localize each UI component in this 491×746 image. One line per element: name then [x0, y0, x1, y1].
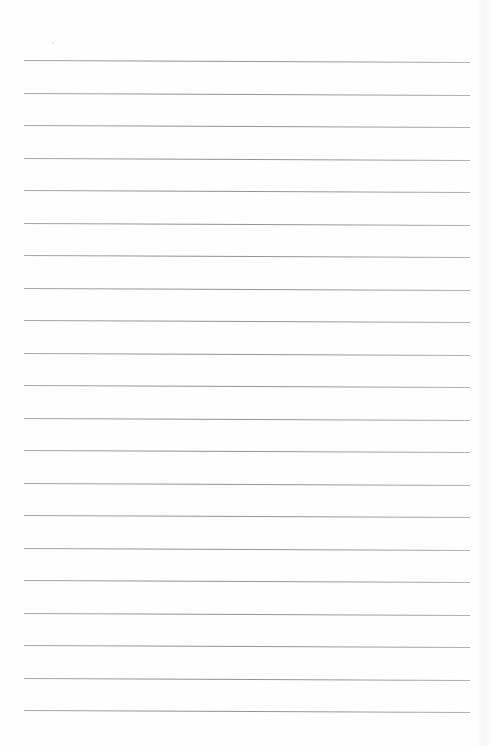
ruled-line [24, 190, 470, 193]
lined-paper-page [0, 0, 491, 746]
paper-speck [52, 42, 54, 44]
ruled-line [24, 418, 470, 421]
ruled-line [24, 125, 470, 128]
ruled-line [24, 320, 470, 323]
ruled-line [24, 223, 470, 226]
ruled-line [24, 678, 470, 681]
ruled-line [24, 483, 470, 486]
page-edge-shading [478, 0, 491, 746]
ruled-line [24, 288, 470, 291]
ruled-line [24, 450, 470, 453]
ruled-line [24, 158, 470, 161]
ruled-line [24, 60, 470, 63]
ruled-line [24, 645, 470, 648]
ruled-line [24, 613, 470, 616]
ruled-line [24, 580, 470, 583]
ruled-line [24, 353, 470, 356]
ruled-line [24, 515, 470, 518]
ruled-line [24, 93, 470, 96]
ruled-line [24, 385, 470, 388]
ruled-line [24, 255, 470, 258]
ruled-line [24, 710, 470, 713]
ruled-line [24, 548, 470, 551]
